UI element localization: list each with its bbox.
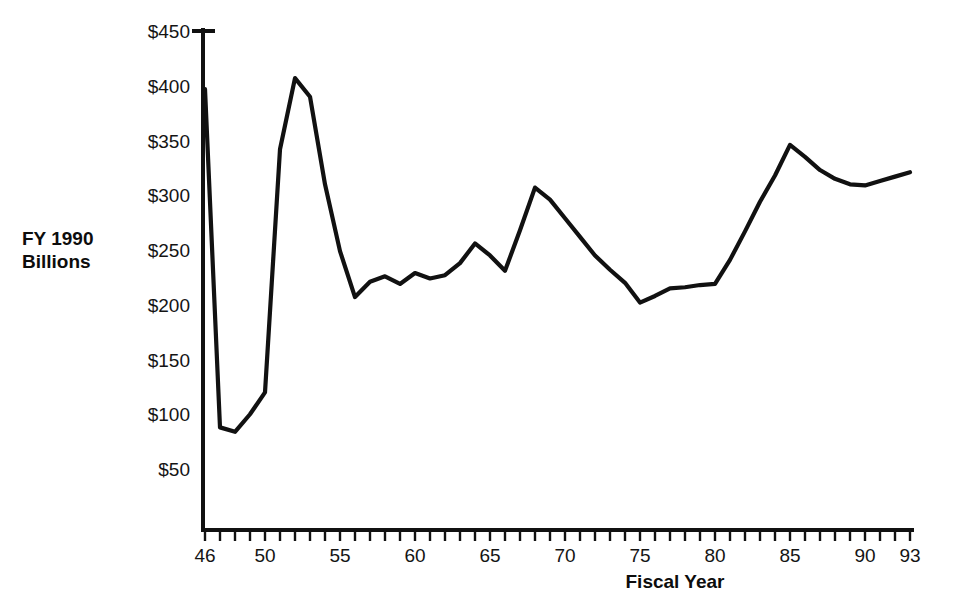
x-axis-tick-label: 65 xyxy=(479,545,500,566)
x-axis-tick-label: 90 xyxy=(854,545,875,566)
x-axis-tick-label: 75 xyxy=(629,545,650,566)
y-axis-tick-label: $350 xyxy=(148,131,190,152)
x-axis-tick-labels: 4650556065707580859093 xyxy=(194,545,920,566)
y-axis-tick-label: $300 xyxy=(148,185,190,206)
y-axis-tick-label: $200 xyxy=(148,295,190,316)
y-axis-tick-label: $150 xyxy=(148,350,190,371)
x-axis-tick-label: 80 xyxy=(704,545,725,566)
x-axis-tick-label: 55 xyxy=(329,545,350,566)
x-axis-tick-label: 50 xyxy=(254,545,275,566)
y-axis-tick-label: $400 xyxy=(148,76,190,97)
y-axis-title-line2: Billions xyxy=(22,251,91,272)
x-axis-tick-label: 60 xyxy=(404,545,425,566)
line-chart: FY 1990 Billions Fiscal Year $450$400$35… xyxy=(0,0,955,600)
series-line-defense-budget-authority xyxy=(205,78,910,432)
y-axis-tick-label: $450 xyxy=(148,21,190,42)
y-axis-title-line1: FY 1990 xyxy=(22,228,93,249)
x-axis-tick-label: 70 xyxy=(554,545,575,566)
y-axis-tick-label: $50 xyxy=(158,459,190,480)
y-axis-tick-label: $250 xyxy=(148,240,190,261)
x-axis-tick-label: 93 xyxy=(899,545,920,566)
chart-container: FY 1990 Billions Fiscal Year $450$400$35… xyxy=(0,0,955,600)
x-axis-tick-label: 85 xyxy=(779,545,800,566)
x-axis-title: Fiscal Year xyxy=(626,571,726,592)
y-axis-tick-labels: $450$400$350$300$250$200$150$100$50 xyxy=(148,21,190,480)
x-axis-tick-label: 46 xyxy=(194,545,215,566)
y-axis-tick-label: $100 xyxy=(148,404,190,425)
